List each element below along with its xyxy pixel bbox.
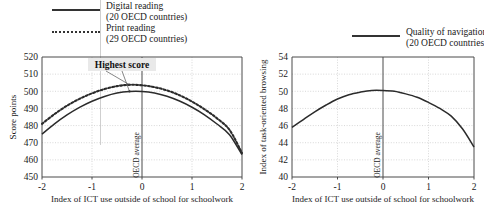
legend-item-quality-of-navigation: Quality of navigation (20 OECD countries… bbox=[352, 27, 484, 48]
y-axis-title: Index of task-oriented browsing bbox=[258, 59, 268, 175]
x-axis-tick-label: 2 bbox=[472, 182, 477, 192]
oecd-average-label: OECD average bbox=[132, 132, 141, 178]
dotted-line-swatch-icon bbox=[52, 27, 100, 37]
y-axis-tick-label: 54 bbox=[279, 52, 289, 62]
x-axis-tick-label: -1 bbox=[334, 182, 342, 192]
x-axis-tick-label: -1 bbox=[88, 182, 96, 192]
y-axis-tick-label: 46 bbox=[279, 121, 289, 131]
legend-sublabel-print-reading: (29 OECD countries) bbox=[106, 34, 187, 45]
right-chart-panel: Quality of navigation (20 OECD countries… bbox=[252, 0, 484, 215]
peak-marker-digital bbox=[128, 90, 130, 92]
x-axis-tick-label: 1 bbox=[426, 182, 431, 192]
solid-line-swatch-icon bbox=[352, 31, 400, 41]
x-axis-tick-label: -2 bbox=[288, 182, 296, 192]
y-axis-tick-label: 42 bbox=[279, 155, 289, 165]
peak-marker-print bbox=[128, 84, 130, 86]
x-axis-title: Index of ICT use outside of school for s… bbox=[292, 194, 474, 204]
legend-item-print-reading: Print reading (29 OECD countries) bbox=[52, 23, 187, 44]
legend-sublabel-quality-of-navigation: (20 OECD countries) bbox=[406, 38, 484, 49]
y-axis-tick-label: 510 bbox=[24, 69, 39, 79]
y-axis-tick-label: 52 bbox=[279, 69, 289, 79]
y-axis-tick-label: 44 bbox=[279, 138, 289, 148]
y-axis-title: Score points bbox=[8, 94, 18, 139]
legend-label-quality-of-navigation: Quality of navigation bbox=[406, 27, 484, 37]
legend-label-print-reading: Print reading bbox=[106, 23, 155, 33]
x-axis-tick-label: 0 bbox=[381, 182, 386, 192]
y-axis-tick-label: 520 bbox=[24, 52, 39, 62]
x-axis-title: Index of ICT use outside of school for s… bbox=[51, 194, 233, 204]
y-axis-tick-label: 48 bbox=[279, 104, 289, 114]
y-axis-tick-label: 460 bbox=[24, 155, 39, 165]
solid-line-swatch-icon bbox=[52, 5, 100, 15]
y-axis-tick-label: 50 bbox=[279, 87, 289, 97]
y-axis-tick-label: 470 bbox=[24, 138, 39, 148]
y-axis-tick-label: 500 bbox=[24, 87, 39, 97]
oecd-average-label: OECD average bbox=[373, 132, 382, 178]
legend-label-digital-reading: Digital reading bbox=[106, 1, 163, 11]
x-axis-tick-label: 2 bbox=[240, 182, 245, 192]
right-legend: Quality of navigation (20 OECD countries… bbox=[352, 27, 484, 49]
figure-root: Digital reading (20 OECD countries) Prin… bbox=[0, 0, 484, 215]
x-axis-tick-label: 0 bbox=[140, 182, 145, 192]
left-chart-panel: Digital reading (20 OECD countries) Prin… bbox=[0, 0, 252, 215]
y-axis-tick-label: 450 bbox=[24, 172, 39, 182]
highest-score-callout-label: Highest score bbox=[95, 60, 149, 70]
y-axis-tick-label: 490 bbox=[24, 104, 39, 114]
y-axis-tick-label: 40 bbox=[279, 172, 289, 182]
legend-sublabel-digital-reading: (20 OECD countries) bbox=[106, 12, 187, 23]
x-axis-tick-label: -2 bbox=[38, 182, 46, 192]
x-axis-tick-label: 1 bbox=[190, 182, 195, 192]
left-legend: Digital reading (20 OECD countries) Prin… bbox=[52, 1, 187, 45]
legend-item-digital-reading: Digital reading (20 OECD countries) bbox=[52, 1, 187, 22]
y-axis-tick-label: 480 bbox=[24, 121, 39, 131]
